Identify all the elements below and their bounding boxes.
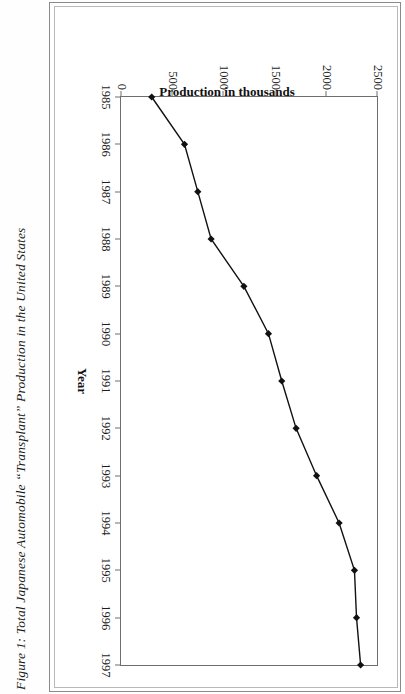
x-tick-label: 1996	[98, 605, 113, 630]
x-tick-label: 1989	[98, 274, 113, 299]
x-tick-label: 1990	[98, 321, 113, 346]
data-point-marker	[293, 425, 300, 432]
x-tick-label: 1995	[98, 558, 113, 583]
x-tick-mark	[115, 286, 121, 287]
x-tick-label: 1986	[98, 132, 113, 157]
x-tick-label: 1991	[98, 369, 113, 394]
y-tick-label: 2000	[318, 65, 333, 90]
x-tick-label: 1993	[98, 463, 113, 488]
y-tick-mark	[377, 91, 378, 97]
x-tick-mark	[115, 333, 121, 334]
data-point-marker	[313, 472, 320, 479]
x-tick-mark	[115, 144, 121, 145]
y-tick-mark	[223, 91, 224, 97]
x-tick-label: 1994	[98, 511, 113, 536]
series-line	[152, 97, 361, 665]
x-tick-mark	[115, 617, 121, 618]
chart-stage: Production in thousands Year 05001000150…	[58, 10, 396, 684]
data-point-marker	[353, 614, 360, 621]
y-tick-label: 1500	[267, 65, 282, 90]
x-tick-mark	[115, 97, 121, 98]
chart-plot-wrapper: Production in thousands Year 05001000150…	[58, 10, 396, 684]
data-point-marker	[278, 377, 285, 384]
x-tick-label: 1987	[98, 179, 113, 204]
x-tick-mark	[115, 475, 121, 476]
x-tick-mark	[115, 381, 121, 382]
x-tick-mark	[115, 239, 121, 240]
data-point-marker	[194, 188, 201, 195]
y-tick-label: 1000	[216, 65, 231, 90]
y-tick-mark	[325, 91, 326, 97]
line-series	[121, 97, 377, 665]
y-tick-mark	[274, 91, 275, 97]
x-tick-mark	[115, 665, 121, 666]
y-tick-label: 2500	[370, 65, 385, 90]
x-tick-mark	[115, 428, 121, 429]
data-point-marker	[357, 661, 364, 668]
y-tick-mark	[172, 91, 173, 97]
x-tick-label: 1988	[98, 227, 113, 252]
y-tick-label: 0	[114, 84, 129, 90]
chart-rotation-wrapper: Production in thousands Year 05001000150…	[58, 10, 396, 684]
x-tick-label: 1985	[98, 85, 113, 110]
chart-plot-area: 0500100015002000250019851986198719881989…	[120, 96, 378, 666]
figure-caption: Figure 1: Total Japanese Automobile “Tra…	[13, 0, 29, 694]
data-point-marker	[336, 519, 343, 526]
x-tick-mark	[115, 570, 121, 571]
x-tick-label: 1992	[98, 416, 113, 441]
figure-page: Figure 1: Total Japanese Automobile “Tra…	[0, 0, 405, 694]
y-tick-label: 500	[165, 71, 180, 90]
data-point-marker	[351, 567, 358, 574]
data-point-marker	[265, 330, 272, 337]
figure-caption-zone: Figure 1: Total Japanese Automobile “Tra…	[0, 0, 42, 694]
x-tick-label: 1997	[98, 653, 113, 678]
x-axis-title: Year	[74, 96, 90, 666]
x-tick-mark	[115, 523, 121, 524]
x-tick-mark	[115, 191, 121, 192]
